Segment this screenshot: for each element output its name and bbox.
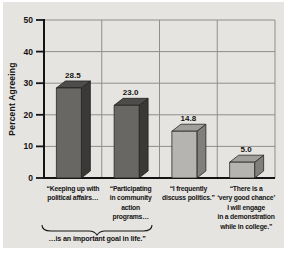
bar-2 [172,124,206,178]
bar-value-label: 23.0 [123,88,139,97]
y-tick-label: 0 [28,173,33,183]
y-tick-label: 50 [24,15,34,25]
bar-3 [230,155,264,178]
annotation-label: …is an important goal in life.” [48,234,145,243]
y-tick-label: 10 [24,141,34,151]
category-label-3: “There is a ‘very good chance’ I will en… [210,184,282,231]
y-axis-title: Percent Agreeing [7,62,17,135]
bar-side-face [197,124,206,178]
bar-value-label: 5.0 [241,145,253,154]
bar-front-face [172,131,197,178]
y-tick-label: 20 [24,110,34,120]
bar-1 [114,98,148,178]
y-tick-label: 40 [24,47,34,57]
y-tick-label: 30 [24,78,34,88]
bar-side-face [81,81,90,178]
bar-front-face [230,162,255,178]
bar-side-face [139,98,148,178]
bar-value-label: 14.8 [181,114,197,123]
bar-0 [56,81,90,178]
bar-value-label: 28.5 [65,71,81,80]
bar-front-face [56,88,81,178]
bar-front-face [114,105,139,178]
